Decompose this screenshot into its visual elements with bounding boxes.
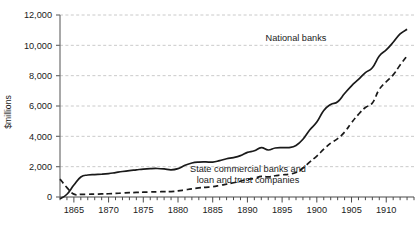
- y-tick-label: 0: [47, 192, 52, 202]
- x-tick-label: 1865: [64, 205, 84, 215]
- x-tick-label: 1900: [307, 205, 327, 215]
- y-tick-label: 6,000: [29, 101, 52, 111]
- x-axis: [60, 197, 414, 203]
- x-tick-label: 1895: [272, 205, 292, 215]
- x-tick-label: 1910: [376, 205, 396, 215]
- x-tick-label: 1905: [341, 205, 361, 215]
- gridlines: [60, 15, 414, 167]
- x-tick-label: 1870: [98, 205, 118, 215]
- y-tick-label: 8,000: [29, 71, 52, 81]
- y-axis-title: $millions: [3, 95, 13, 128]
- y-tick-labels: 02,0004,0006,0008,00010,00012,000: [24, 10, 52, 202]
- x-tick-label: 1885: [202, 205, 222, 215]
- chart-container: 02,0004,0006,0008,00010,00012,000 186518…: [0, 0, 420, 231]
- y-axis-title-text: $millions: [3, 95, 13, 128]
- series-annotation: National banks: [266, 33, 327, 43]
- series-annotation: loan and trust companies: [197, 175, 300, 185]
- x-tick-label: 1890: [237, 205, 257, 215]
- y-tick-label: 4,000: [29, 132, 52, 142]
- x-tick-labels: 1865187018751880188518901895190019051910: [64, 205, 397, 215]
- x-tick-label: 1875: [133, 205, 153, 215]
- series-annotation: State commercial banks and: [190, 164, 306, 174]
- y-axis: [56, 15, 60, 197]
- y-tick-label: 10,000: [24, 41, 52, 51]
- y-tick-label: 12,000: [24, 10, 52, 20]
- line-chart: 02,0004,0006,0008,00010,00012,000 186518…: [0, 0, 420, 231]
- x-tick-label: 1880: [168, 205, 188, 215]
- y-tick-label: 2,000: [29, 162, 52, 172]
